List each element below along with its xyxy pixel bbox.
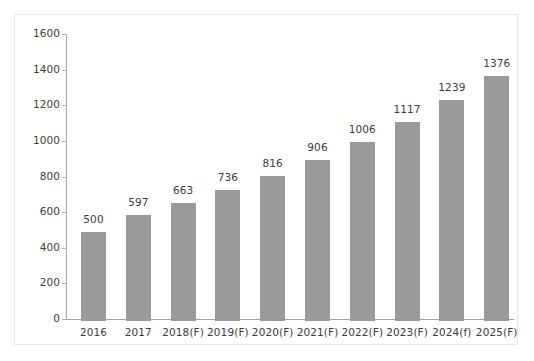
y-axis-tick-label: 400 — [20, 241, 60, 253]
y-axis-tick-label: 600 — [20, 205, 60, 217]
y-axis-tick-label: 1000 — [20, 134, 60, 146]
y-axis-tick-label: 1600 — [20, 27, 60, 39]
y-axis-tick-label: 1400 — [20, 63, 60, 75]
x-axis-category-label: 2025(F) — [470, 326, 523, 338]
y-axis-tick-label: 0 — [20, 312, 60, 324]
chart-screenshot: 16001400120010008006004002000 5005976637… — [0, 0, 534, 361]
y-axis-tick-label: 200 — [20, 276, 60, 288]
y-axis-tick-label: 1200 — [20, 98, 60, 110]
x-axis-category-labels: 201620172018(F)2019(F)2020(F)2021(F)2022… — [66, 0, 518, 361]
y-axis-tick-label: 800 — [20, 170, 60, 182]
y-axis-tick-labels: 16001400120010008006004002000 — [16, 0, 60, 361]
